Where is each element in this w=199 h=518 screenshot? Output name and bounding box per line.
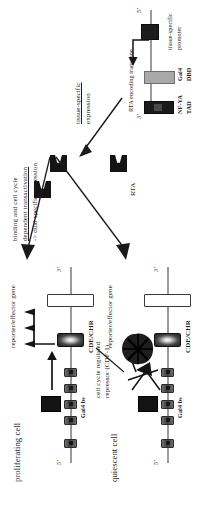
gal4-binding-site (161, 368, 174, 377)
gal4-binding-site (161, 384, 174, 393)
gal4-dbd-segment (144, 71, 175, 84)
nfya-tad-segment (144, 101, 174, 114)
reporter-effector-gene-box (144, 294, 191, 307)
gal4-binding-site (64, 400, 77, 409)
repressor-label-line2: repressor (CDF-1) (104, 345, 112, 398)
gal4-binding-site (161, 439, 174, 448)
transactivation-arrow (44, 350, 60, 390)
transgene-five-prime-label: 5' (136, 8, 143, 13)
proliferating-three-prime-label: 3' (56, 267, 63, 272)
gal4-binding-site (161, 400, 174, 409)
transgene-three-prime-label: 3' (136, 114, 143, 119)
bound-rta-activator (41, 396, 61, 412)
gal4-binding-site (161, 416, 174, 425)
quiescent-three-prime-label: 3' (153, 267, 160, 272)
quiescent-gene-label: reporter/effector gene (107, 285, 115, 348)
gal4-binding-site (64, 384, 77, 393)
dbd-label-line2: DBD (186, 68, 193, 81)
tissue-expression-line1: tissue-specific (75, 82, 83, 124)
gal4-binding-site (64, 368, 77, 377)
quiescent-five-prime-label: 5' (153, 460, 160, 465)
proliferating-gene-label: reporter/effector gene (10, 285, 18, 348)
proliferating-cell-label: proliferating cell (13, 423, 23, 482)
gal4-binding-site (64, 416, 77, 425)
proliferating-gal4-bs-caption: Gal4 bs (80, 397, 87, 418)
dual-specific-line2: dependent transactivation (22, 167, 30, 241)
cde-chr-element (154, 333, 181, 347)
dual-specific-line3: -> dual specific expression (32, 163, 40, 241)
tad-label-line2: TAD (186, 101, 193, 114)
reporter-effector-gene-box (47, 294, 94, 307)
quiescent-gal4-bs-caption: Gal4 bs (177, 397, 184, 418)
quiescent-cell-label: quiescent cell (110, 434, 120, 482)
cde-chr-element (57, 333, 84, 347)
dbd-label-line1: Gal4 (177, 68, 184, 81)
bound-rta-activator (138, 396, 158, 412)
tad-label-line1: NF-YA (177, 95, 184, 114)
promoter-label-line1: tissue-specific (167, 13, 174, 50)
gal4-binding-site (64, 439, 77, 448)
figure-canvas: proliferating cell 5' Gal4 bs CDE/CHR re… (0, 0, 199, 518)
dual-specific-line1: binding and cell cycle (12, 177, 20, 241)
repressor-label-line1: cell cycle regulated (95, 342, 103, 398)
transgene-label: RTA encoding transgene (128, 49, 135, 112)
promoter-label-line2: promoter (176, 27, 183, 50)
tissue-expression-line2: expression (85, 93, 93, 124)
transcription-start-arrows (22, 306, 56, 350)
quiescent-cde-chr-label: CDE/CHR (185, 320, 193, 353)
proliferating-five-prime-label: 5' (56, 460, 63, 465)
